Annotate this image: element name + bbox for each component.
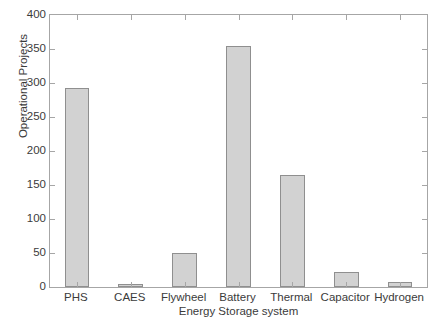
- x-axis-tick-mark: [131, 15, 132, 20]
- y-axis-tick-label: 150: [0, 178, 46, 190]
- bar-thermal: [280, 175, 305, 287]
- y-axis-tick-mark: [422, 151, 427, 152]
- y-axis-tick-mark: [422, 83, 427, 84]
- y-axis-tick-mark: [422, 185, 427, 186]
- plot-area-box: [49, 14, 428, 288]
- y-axis-tick-labels: 050100150200250300350400: [0, 0, 46, 322]
- bar-chart: Operational Projects 0501001502002503003…: [0, 0, 433, 322]
- x-axis-tick-mark: [346, 15, 347, 20]
- x-axis-tick-mark: [292, 282, 293, 287]
- y-axis-tick-mark: [50, 253, 55, 254]
- y-axis-tick-mark: [50, 83, 55, 84]
- x-axis-tick-mark: [185, 15, 186, 20]
- y-axis-tick-label: 200: [0, 144, 46, 156]
- x-axis-tick-mark: [292, 15, 293, 20]
- x-axis-tick-label: PHS: [64, 291, 88, 303]
- x-axis-tick-label: Battery: [219, 291, 255, 303]
- y-axis-tick-mark: [50, 151, 55, 152]
- y-axis-tick-mark: [422, 49, 427, 50]
- y-axis-tick-mark: [50, 185, 55, 186]
- y-axis-tick-label: 300: [0, 76, 46, 88]
- x-axis-tick-mark: [131, 282, 132, 287]
- y-axis-tick-label: 350: [0, 42, 46, 54]
- x-axis-tick-label: Capacitor: [321, 291, 370, 303]
- x-axis-tick-mark: [77, 15, 78, 20]
- x-axis-tick-mark: [400, 15, 401, 20]
- x-axis-tick-label: Flywheel: [161, 291, 206, 303]
- y-axis-tick-mark: [50, 49, 55, 50]
- bar-phs: [65, 88, 90, 287]
- plot-area: [50, 15, 427, 287]
- y-axis-tick-mark: [422, 253, 427, 254]
- y-axis-tick-label: 0: [0, 280, 46, 292]
- y-axis-tick-label: 400: [0, 8, 46, 20]
- y-axis-tick-label: 100: [0, 212, 46, 224]
- x-axis-tick-label: Hydrogen: [374, 291, 424, 303]
- x-axis-tick-mark: [346, 282, 347, 287]
- y-axis-tick-mark: [50, 219, 55, 220]
- x-axis-tick-mark: [400, 282, 401, 287]
- x-axis-title: Energy Storage system: [49, 305, 428, 317]
- x-axis-tick-mark: [239, 282, 240, 287]
- y-axis-tick-mark: [422, 117, 427, 118]
- x-axis-tick-mark: [239, 15, 240, 20]
- y-axis-tick-label: 250: [0, 110, 46, 122]
- x-axis-tick-mark: [77, 282, 78, 287]
- y-axis-tick-mark: [50, 117, 55, 118]
- bar-battery: [226, 46, 251, 287]
- x-axis-tick-label: Thermal: [270, 291, 312, 303]
- x-axis-tick-label: CAES: [114, 291, 145, 303]
- x-axis-tick-mark: [185, 282, 186, 287]
- y-axis-tick-label: 50: [0, 246, 46, 258]
- y-axis-tick-mark: [422, 219, 427, 220]
